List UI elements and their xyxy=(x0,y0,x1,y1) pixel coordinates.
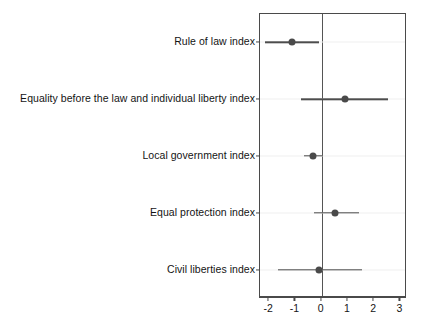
category-label: Rule of law index xyxy=(174,35,255,47)
x-axis-tick-label: 2 xyxy=(370,302,376,314)
point-estimate-marker xyxy=(315,266,322,273)
category-label: Local government index xyxy=(142,149,255,161)
category-tick xyxy=(256,155,260,156)
category-tick xyxy=(256,212,260,213)
x-axis-tick-label: 0 xyxy=(318,302,324,314)
x-axis-tick xyxy=(373,297,374,301)
category-label: Civil liberties index xyxy=(167,263,255,275)
category-label: Equal protection index xyxy=(150,206,255,218)
x-axis-tick-label: 1 xyxy=(344,302,350,314)
x-axis-tick-label: 3 xyxy=(397,302,403,314)
category-axis-labels: Rule of law indexEquality before the law… xyxy=(0,13,255,297)
point-estimate-marker xyxy=(310,153,317,160)
row-guide xyxy=(260,156,405,157)
category-label: Equality before the law and individual l… xyxy=(20,92,255,104)
x-axis-tick xyxy=(346,297,347,301)
category-tick xyxy=(256,269,260,270)
x-axis: -2-10123 xyxy=(259,297,406,328)
x-axis-tick xyxy=(399,297,400,301)
category-tick xyxy=(256,99,260,100)
x-axis-line xyxy=(259,297,406,298)
x-axis-tick xyxy=(268,297,269,301)
point-estimate-marker xyxy=(288,39,295,46)
x-axis-tick xyxy=(320,297,321,301)
x-axis-tick xyxy=(294,297,295,301)
category-tick xyxy=(256,42,260,43)
coefficient-plot-figure: Rule of law indexEquality before the law… xyxy=(0,0,421,328)
x-axis-tick-label: -2 xyxy=(264,302,273,314)
plot-area xyxy=(260,14,405,296)
point-estimate-marker xyxy=(341,96,348,103)
plot-frame xyxy=(259,13,406,297)
x-axis-tick-label: -1 xyxy=(290,302,299,314)
point-estimate-marker xyxy=(332,209,339,216)
